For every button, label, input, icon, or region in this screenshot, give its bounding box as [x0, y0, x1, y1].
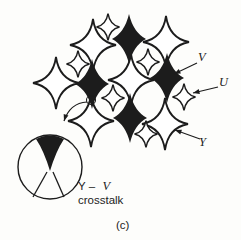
figure-canvas: V U Y Y – V crosstalk (c): [0, 0, 241, 240]
label-y: Y: [199, 135, 208, 149]
v-star: [112, 14, 146, 64]
y-edge-line-right: [53, 172, 64, 197]
v-tip-wedge: [36, 136, 64, 171]
figure-caption: (c): [116, 219, 130, 231]
u-star: [102, 85, 125, 112]
y-pointer-arrow-head: [175, 130, 182, 135]
u-star: [137, 49, 160, 76]
u-star: [173, 84, 196, 111]
y-star: [142, 98, 188, 150]
crosstalk-inset: [18, 135, 82, 199]
label-u: U: [219, 75, 229, 89]
y-edge-line-left: [33, 172, 47, 197]
crosstalk-label-line2: crosstalk: [78, 194, 124, 206]
crosstalk-label-line1: Y – V: [78, 176, 112, 193]
magnify-arrow-head: [64, 114, 69, 121]
spectrum-diagram: V U Y Y – V crosstalk (c): [0, 0, 241, 240]
label-v: V: [198, 50, 207, 64]
